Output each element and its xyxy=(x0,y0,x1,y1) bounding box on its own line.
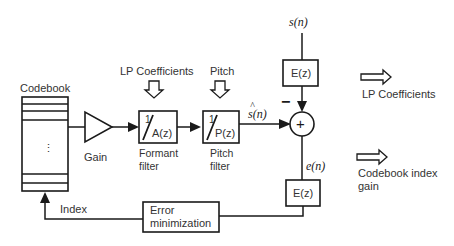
s-hat-label: s(n) xyxy=(248,107,267,121)
pitch-input-label: Pitch xyxy=(210,65,234,77)
arrow-down-to-sum-icon xyxy=(297,101,307,112)
formant-caption-line1: Formant xyxy=(139,147,178,159)
output-lp-coefficients-label: LP Coefficients xyxy=(362,88,436,100)
gain-label: Gain xyxy=(84,151,107,163)
codebook-label: Codebook xyxy=(20,82,71,94)
weighting-filter-bottom-label: E(z) xyxy=(293,187,313,199)
hollow-down-arrow-icon xyxy=(145,81,163,98)
feedback-index-label: Index xyxy=(60,203,87,215)
output-hollow-right-arrow-icon xyxy=(361,70,391,84)
pitch-numerator: 1 xyxy=(209,114,215,125)
gain-triangle xyxy=(85,112,112,142)
weighting-filter-top-label: E(z) xyxy=(291,67,311,79)
sum-minus-sign: − xyxy=(281,93,290,110)
error-minimization-line2: minimization xyxy=(150,217,211,229)
output-hollow-right-arrow-icon xyxy=(357,150,387,164)
arrow-to-pitch-icon xyxy=(190,122,201,132)
output-gain-label: gain xyxy=(358,180,379,192)
sum-plus-sign: + xyxy=(296,115,305,132)
lp-coefficients-input-label: LP Coefficients xyxy=(120,65,194,77)
formant-numerator: 1 xyxy=(145,114,151,125)
input-signal-label: s(n) xyxy=(289,15,308,29)
arrow-to-formant-icon xyxy=(128,122,139,132)
output-codebook-index-label: Codebook index xyxy=(358,167,438,179)
pitch-denominator: P(z) xyxy=(215,127,235,139)
celp-encoder-diagram: Codebook ⋮ Gain LP Coefficients 1 A(z) F… xyxy=(0,0,454,246)
hollow-down-arrow-icon xyxy=(211,81,229,98)
arrow-up-to-codebook-icon xyxy=(40,192,50,203)
formant-denominator: A(z) xyxy=(152,127,172,139)
formant-caption-line2: filter xyxy=(139,160,159,172)
error-minimization-line1: Error xyxy=(150,204,175,216)
pitch-caption-line2: filter xyxy=(210,160,230,172)
wire-ezbottom-errmin xyxy=(219,206,303,216)
error-signal-label: e(n) xyxy=(306,159,325,173)
codebook-ellipsis: ⋮ xyxy=(43,142,54,154)
pitch-caption-line1: Pitch xyxy=(210,147,234,159)
